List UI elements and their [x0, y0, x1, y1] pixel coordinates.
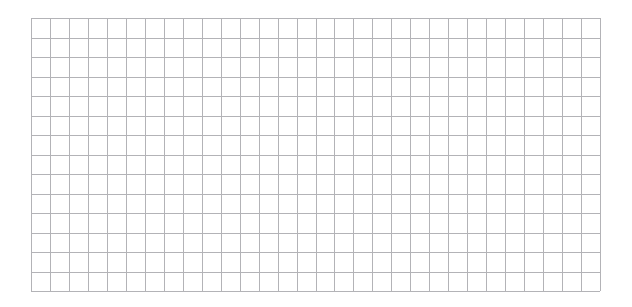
gridline-vertical: [391, 18, 392, 291]
gridline-vertical: [448, 18, 449, 291]
gridline-vertical: [581, 18, 582, 291]
gridline-vertical: [88, 18, 89, 291]
gridline-horizontal: [31, 96, 600, 97]
gridline-vertical: [278, 18, 279, 291]
gridline-horizontal: [31, 194, 600, 195]
gridline-vertical: [505, 18, 506, 291]
gridline-vertical: [126, 18, 127, 291]
gridline-vertical: [31, 18, 32, 291]
gridline-horizontal: [31, 57, 600, 58]
gridline-horizontal: [31, 174, 600, 175]
plot-area[interactable]: [31, 18, 600, 291]
gridline-vertical: [543, 18, 544, 291]
gridline-horizontal: [31, 213, 600, 214]
gridline-horizontal: [31, 38, 600, 39]
gridline-vertical: [562, 18, 563, 291]
gridline-vertical: [372, 18, 373, 291]
gridline-vertical: [353, 18, 354, 291]
gridline-vertical: [69, 18, 70, 291]
gridline-vertical: [467, 18, 468, 291]
gridline-vertical: [297, 18, 298, 291]
gridline-vertical: [429, 18, 430, 291]
gridline-horizontal: [31, 233, 600, 234]
gridline-horizontal: [31, 135, 600, 136]
gridline-vertical: [316, 18, 317, 291]
gridline-vertical: [221, 18, 222, 291]
gridline-vertical: [259, 18, 260, 291]
gridline-vertical: [600, 18, 601, 291]
grid-layer: [31, 18, 600, 291]
figure-root: [0, 0, 632, 307]
gridline-vertical: [183, 18, 184, 291]
gridline-horizontal: [31, 77, 600, 78]
gridline-vertical: [164, 18, 165, 291]
gridline-vertical: [410, 18, 411, 291]
gridline-horizontal: [31, 252, 600, 253]
gridline-vertical: [334, 18, 335, 291]
gridline-horizontal: [31, 155, 600, 156]
gridline-vertical: [107, 18, 108, 291]
gridline-horizontal: [31, 272, 600, 273]
gridline-vertical: [145, 18, 146, 291]
gridline-vertical: [240, 18, 241, 291]
gridline-horizontal: [31, 18, 600, 19]
gridline-vertical: [50, 18, 51, 291]
gridline-vertical: [486, 18, 487, 291]
gridline-horizontal: [31, 291, 600, 292]
gridline-vertical: [524, 18, 525, 291]
gridline-vertical: [202, 18, 203, 291]
gridline-horizontal: [31, 116, 600, 117]
